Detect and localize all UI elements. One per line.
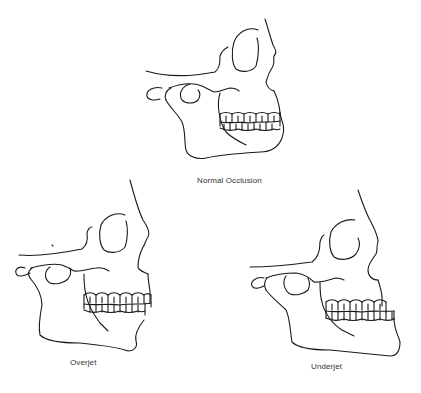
skull-normal-occlusion xyxy=(140,0,300,175)
skull-normal-drawing xyxy=(140,0,300,175)
caption-overjet: Overjet xyxy=(70,358,97,367)
skull-overjet xyxy=(0,175,170,355)
caption-underjet: Underjet xyxy=(311,362,342,371)
skull-underjet xyxy=(250,190,421,360)
caption-normal-occlusion: Normal Occlusion xyxy=(197,176,262,185)
skull-underjet-drawing xyxy=(250,190,421,360)
occlusion-diagram: Normal Occlusion xyxy=(0,0,421,393)
skull-overjet-drawing xyxy=(0,175,170,355)
